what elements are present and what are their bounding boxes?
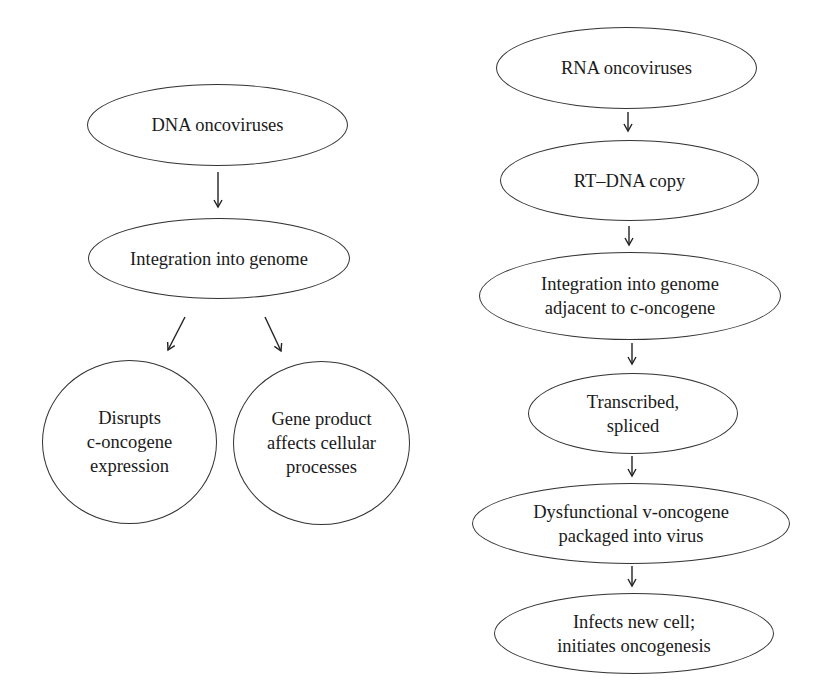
node-label: Disrupts c-oncogene expression	[87, 406, 172, 478]
node-rt-dna-copy: RT–DNA copy	[500, 140, 759, 221]
node-integration-adjacent: Integration into genome adjacent to c-on…	[479, 252, 781, 340]
node-disrupts-c-oncogene: Disrupts c-oncogene expression	[42, 360, 217, 524]
node-label: Integration into genome adjacent to c-on…	[541, 272, 719, 320]
node-label: RT–DNA copy	[574, 169, 685, 193]
node-label: Dysfunctional v-oncogene packaged into v…	[533, 500, 729, 548]
node-label: Gene product affects cellular processes	[267, 407, 376, 479]
arrow-integration-to-gene-product	[265, 317, 281, 351]
node-transcribed-spliced: Transcribed, spliced	[528, 373, 738, 454]
node-label: RNA oncoviruses	[561, 56, 692, 80]
node-label: Transcribed, spliced	[587, 390, 679, 438]
node-dna-oncoviruses: DNA oncoviruses	[87, 84, 348, 166]
arrow-integration-to-disrupts	[168, 317, 185, 350]
node-label: DNA oncoviruses	[151, 113, 283, 137]
node-label: Integration into genome	[130, 247, 308, 271]
node-infects-new-cell: Infects new cell; initiates oncogenesis	[494, 593, 774, 674]
node-label: Infects new cell; initiates oncogenesis	[557, 610, 711, 658]
node-rna-oncoviruses: RNA oncoviruses	[496, 27, 757, 109]
node-integration-into-genome: Integration into genome	[88, 218, 350, 299]
node-gene-product-affects: Gene product affects cellular processes	[233, 361, 410, 525]
node-dysfunctional-v-oncogene: Dysfunctional v-oncogene packaged into v…	[472, 483, 790, 564]
